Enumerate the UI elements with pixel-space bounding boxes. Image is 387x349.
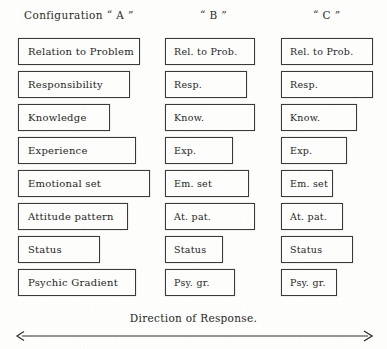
box-label: Rel. to Prob. xyxy=(166,46,237,57)
configuration-b-column: Rel. to Prob.Resp.Know.Exp.Em. setAt. pa… xyxy=(165,38,255,302)
box-a-4: Experience xyxy=(18,137,136,164)
box-b-3: Know. xyxy=(165,104,255,131)
box-label: Em. set xyxy=(282,178,328,189)
box-label: Psy. gr. xyxy=(282,277,326,288)
box-label: Exp. xyxy=(282,145,312,156)
box-c-6: At. pat. xyxy=(281,203,343,230)
box-label: Experience xyxy=(19,145,88,156)
box-c-4: Exp. xyxy=(281,137,347,164)
box-label: Emotional set xyxy=(19,178,101,189)
box-c-8: Psy. gr. xyxy=(281,269,337,296)
box-a-5: Emotional set xyxy=(18,170,150,197)
box-label: Psychic Gradient xyxy=(19,277,118,288)
box-label: Resp. xyxy=(166,79,202,90)
box-label: Responsibility xyxy=(19,79,103,90)
box-label: Know. xyxy=(166,112,204,123)
box-label: Resp. xyxy=(282,79,318,90)
box-b-8: Psy. gr. xyxy=(165,269,235,296)
box-a-3: Knowledge xyxy=(18,104,110,131)
column-header-b: “ B ” xyxy=(200,9,227,21)
box-label: At. pat. xyxy=(166,211,211,222)
box-label: Know. xyxy=(282,112,320,123)
box-label: Status xyxy=(282,244,322,255)
box-b-5: Em. set xyxy=(165,170,249,197)
box-label: Rel. to Prob. xyxy=(282,46,353,57)
column-header-a: Configuration “ A ” xyxy=(24,9,134,21)
box-b-2: Resp. xyxy=(165,71,247,98)
box-a-2: Responsibility xyxy=(18,71,130,98)
box-b-7: Status xyxy=(165,236,223,263)
box-c-1: Rel. to Prob. xyxy=(281,38,373,65)
box-c-5: Em. set xyxy=(281,170,333,197)
box-label: At. pat. xyxy=(282,211,327,222)
box-b-1: Rel. to Prob. xyxy=(165,38,255,65)
box-label: Relation to Problem xyxy=(19,46,134,57)
box-label: Psy. gr. xyxy=(166,277,210,288)
box-label: Em. set xyxy=(166,178,212,189)
box-label: Status xyxy=(166,244,206,255)
direction-of-response-arrow xyxy=(14,328,376,344)
box-a-6: Attitude pattern xyxy=(18,203,128,230)
box-label: Exp. xyxy=(166,145,196,156)
box-label: Status xyxy=(19,244,62,255)
box-c-7: Status xyxy=(281,236,353,263)
box-a-1: Relation to Problem xyxy=(18,38,140,65)
column-header-c: “ C ” xyxy=(313,9,340,21)
box-a-7: Status xyxy=(18,236,100,263)
box-c-3: Know. xyxy=(281,104,357,131)
box-a-8: Psychic Gradient xyxy=(18,269,136,296)
configuration-c-column: Rel. to Prob.Resp.Know.Exp.Em. setAt. pa… xyxy=(281,38,373,302)
configuration-diagram: Configuration “ A ” “ B ” “ C ” Relation… xyxy=(0,0,387,349)
box-c-2: Resp. xyxy=(281,71,373,98)
figure-caption: Direction of Response. xyxy=(0,312,387,324)
configuration-a-column: Relation to ProblemResponsibilityKnowled… xyxy=(18,38,150,302)
box-label: Knowledge xyxy=(19,112,87,123)
box-b-6: At. pat. xyxy=(165,203,255,230)
box-b-4: Exp. xyxy=(165,137,233,164)
box-label: Attitude pattern xyxy=(19,211,114,222)
